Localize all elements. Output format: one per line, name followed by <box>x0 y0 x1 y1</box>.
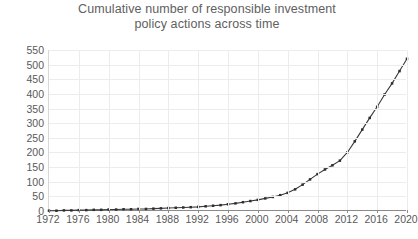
data-point-marker <box>212 204 215 207</box>
gridline-vertical <box>258 50 259 210</box>
chart-title-line-1: Cumulative number of responsible investm… <box>0 2 414 17</box>
data-point-marker <box>219 204 222 207</box>
data-point-marker <box>294 188 297 191</box>
y-axis-tick-label: 200 <box>0 146 44 158</box>
data-point-marker <box>152 207 155 210</box>
y-axis-tick-label: 550 <box>0 44 44 56</box>
y-axis-tick-label: 450 <box>0 73 44 85</box>
data-point-marker <box>339 159 342 162</box>
x-axis-tick-label: 2020 <box>394 213 417 225</box>
gridline-vertical <box>228 50 229 210</box>
data-point-marker <box>63 209 66 212</box>
data-point-marker <box>391 82 394 85</box>
chart-title-line-2: policy actions across time <box>0 17 414 32</box>
gridline-vertical <box>109 50 110 210</box>
data-point-marker <box>361 128 364 131</box>
y-axis-tick-label: 350 <box>0 103 44 115</box>
y-axis-tick-label: 100 <box>0 176 44 188</box>
data-point-marker <box>70 209 73 212</box>
data-point-marker <box>160 207 163 210</box>
x-axis-labels: 1972197619801984198819921996200020042008… <box>0 213 414 233</box>
data-point-marker <box>309 178 312 181</box>
data-point-marker <box>93 209 96 212</box>
data-point-marker <box>234 202 237 205</box>
data-point-marker <box>189 206 192 209</box>
x-axis-tick-label: 1992 <box>185 213 208 225</box>
gridline-vertical <box>288 50 289 210</box>
x-axis-tick-label: 2004 <box>275 213 298 225</box>
x-axis-tick-label: 1976 <box>66 213 89 225</box>
gridline-vertical <box>377 50 378 210</box>
x-axis-tick-label: 2008 <box>305 213 328 225</box>
data-point-marker <box>301 183 304 186</box>
y-axis-tick-label: 50 <box>0 190 44 202</box>
x-axis-tick-label: 2012 <box>335 213 358 225</box>
data-point-marker <box>175 207 178 210</box>
gridline-vertical <box>139 50 140 210</box>
data-point-marker <box>368 117 371 120</box>
gridline-vertical <box>318 50 319 210</box>
y-axis-tick-label: 500 <box>0 59 44 71</box>
x-axis-tick-label: 1984 <box>126 213 149 225</box>
x-axis-tick-label: 1996 <box>215 213 238 225</box>
data-point-marker <box>204 205 207 208</box>
data-point-marker <box>354 140 357 143</box>
x-axis-tick-label: 1972 <box>36 213 59 225</box>
gridline-vertical <box>407 50 408 210</box>
data-point-marker <box>398 70 401 73</box>
data-point-marker <box>145 208 148 211</box>
y-axis-tick-label: 400 <box>0 88 44 100</box>
x-axis-tick-label: 1988 <box>156 213 179 225</box>
data-point-marker <box>249 200 252 203</box>
plot-area <box>48 50 406 211</box>
gridline-vertical <box>198 50 199 210</box>
x-axis-tick-label: 2016 <box>364 213 387 225</box>
data-point-marker <box>182 206 185 209</box>
data-point-marker <box>85 209 88 212</box>
y-axis-tick-label: 300 <box>0 117 44 129</box>
x-axis-tick-label: 2000 <box>245 213 268 225</box>
data-point-marker <box>130 208 133 211</box>
data-point-marker <box>264 197 267 200</box>
data-point-marker <box>324 168 327 171</box>
data-point-marker <box>100 209 103 212</box>
data-point-marker <box>55 209 58 212</box>
x-axis-tick-label: 1980 <box>96 213 119 225</box>
y-axis-labels: 050100150200250300350400450500550 <box>0 0 44 239</box>
y-axis-tick-label: 150 <box>0 161 44 173</box>
gridline-vertical <box>347 50 348 210</box>
gridline-vertical <box>168 50 169 210</box>
data-point-marker <box>122 208 125 211</box>
gridline-vertical <box>79 50 80 210</box>
chart-title: Cumulative number of responsible investm… <box>0 2 414 32</box>
data-point-marker <box>242 201 245 204</box>
y-axis-tick-label: 250 <box>0 132 44 144</box>
data-point-marker <box>115 208 118 211</box>
